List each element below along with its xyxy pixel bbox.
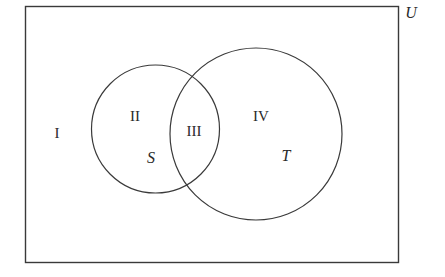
region-iii-label: III: [187, 124, 202, 139]
set-s-label: S: [147, 150, 155, 166]
region-iv-label: IV: [253, 109, 269, 124]
region-i-label: I: [55, 126, 60, 141]
set-t-label: T: [282, 148, 291, 164]
universe-label: U: [405, 5, 417, 21]
region-ii-label: II: [130, 109, 140, 124]
venn-diagram: [0, 0, 445, 277]
